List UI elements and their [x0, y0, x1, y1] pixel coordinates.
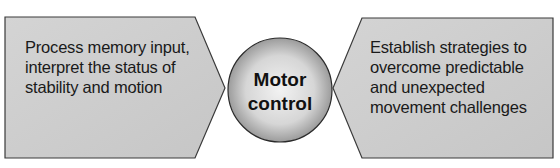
text-line: Establish strategies to — [370, 37, 555, 57]
center-label: Motor control — [228, 68, 332, 116]
text-line: interpret the status of — [25, 57, 205, 77]
left-box-text: Process memory input, interpret the stat… — [25, 37, 205, 97]
text-line: and unexpected — [370, 77, 555, 97]
text-line: overcome predictable — [370, 57, 555, 77]
text-line: movement challenges — [370, 97, 555, 117]
text-line: control — [228, 92, 332, 116]
text-line: Process memory input, — [25, 37, 205, 57]
text-line: Motor — [228, 68, 332, 92]
right-box-text: Establish strategies to overcome predict… — [370, 37, 555, 117]
text-line: stability and motion — [25, 77, 205, 97]
